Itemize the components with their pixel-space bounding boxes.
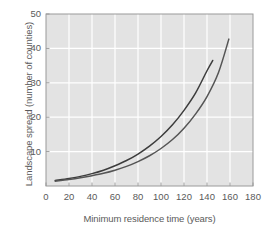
x-axis-label: Minimum residence time (years) xyxy=(83,213,215,224)
y-axis-label-wrapper: Landscape spread (number of counties) xyxy=(18,19,36,189)
y-axis-label: Landscape spread (number of counties) xyxy=(23,22,34,186)
x-axis-label-wrapper: Minimum residence time (years) xyxy=(46,208,253,226)
plot-background xyxy=(46,14,253,186)
y-tick-label: 50 xyxy=(12,8,41,19)
chart-figure: 1020304050 020406080100120140160180 Land… xyxy=(0,0,271,231)
x-tick-label: 180 xyxy=(240,191,266,202)
